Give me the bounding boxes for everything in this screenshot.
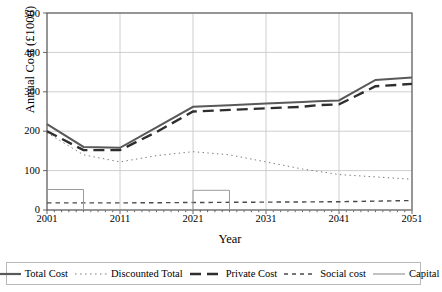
- legend-swatch-discounted-total: [74, 269, 108, 279]
- plot-frame: [47, 13, 412, 210]
- legend-swatch-capital: [372, 269, 406, 279]
- series-line-discounted-total: [47, 133, 412, 179]
- chart-legend: Total Cost Discounted Total Private Cost…: [6, 262, 421, 285]
- legend-swatch-private-cost: [189, 269, 223, 279]
- series-line-private-cost: [47, 84, 412, 150]
- legend-swatch-total-cost: [0, 269, 22, 279]
- legend-label-private-cost: Private Cost: [226, 268, 278, 279]
- legend-item-capital[interactable]: Capital: [369, 268, 442, 279]
- axis-ticks: [43, 13, 412, 214]
- legend-item-total-cost[interactable]: Total Cost: [0, 268, 71, 279]
- series-line-capital: [47, 190, 412, 210]
- legend-label-capital: Capital: [409, 268, 439, 279]
- legend-item-discounted-total[interactable]: Discounted Total: [71, 268, 186, 279]
- series-layer: [47, 78, 412, 210]
- legend-label-social-cost: Social cost: [320, 268, 366, 279]
- series-line-total-cost: [47, 78, 412, 148]
- gridlines: [47, 13, 412, 210]
- legend-item-social-cost[interactable]: Social cost: [280, 268, 369, 279]
- legend-swatch-social-cost: [283, 269, 317, 279]
- legend-label-discounted-total: Discounted Total: [111, 268, 183, 279]
- legend-label-total-cost: Total Cost: [25, 268, 68, 279]
- legend-item-private-cost[interactable]: Private Cost: [186, 268, 281, 279]
